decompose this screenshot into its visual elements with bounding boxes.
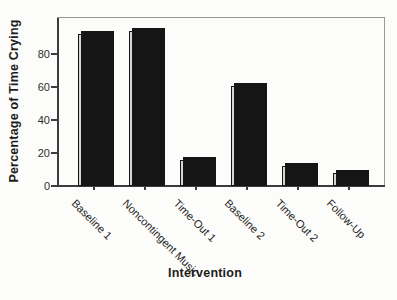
x-tick-label-baseline-2: Baseline 2: [223, 197, 268, 242]
y-tick-label-20: 20: [22, 147, 50, 160]
y-axis-title: Percentage of Time Crying: [7, 19, 21, 182]
bar-time-out-1: [180, 160, 213, 186]
x-axis-title: Intervention: [168, 266, 242, 280]
y-tick-mark-80: [51, 53, 57, 55]
bar-noncontingent-music: [129, 31, 162, 186]
plot-area: 020406080Baseline 1Noncontingent MusicTi…: [57, 17, 385, 187]
y-tick-mark-0: [51, 185, 57, 187]
x-tick-mark-baseline-1: [93, 186, 95, 190]
y-tick-label-0: 0: [22, 180, 50, 193]
bar-chart-figure: Percentage of Time Crying 020406080Basel…: [0, 0, 397, 300]
y-axis-line: [57, 18, 59, 186]
x-tick-label-follow-up: Follow-Up: [325, 197, 368, 240]
y-tick-mark-20: [51, 152, 57, 154]
x-tick-label-time-out-2: Time-Out 2: [274, 197, 321, 244]
x-tick-mark-time-out-1: [195, 186, 197, 190]
x-tick-mark-time-out-2: [297, 186, 299, 190]
x-tick-mark-follow-up: [348, 186, 350, 190]
bar-baseline-1: [78, 34, 111, 186]
x-tick-mark-baseline-2: [246, 186, 248, 190]
y-tick-label-40: 40: [22, 114, 50, 127]
bar-time-out-2: [282, 166, 315, 186]
bar-follow-up: [333, 173, 366, 186]
x-tick-label-baseline-1: Baseline 1: [70, 197, 115, 242]
y-tick-mark-40: [51, 119, 57, 121]
y-tick-mark-60: [51, 86, 57, 88]
y-tick-label-80: 80: [22, 48, 50, 61]
y-tick-label-60: 60: [22, 81, 50, 94]
x-tick-label-time-out-1: Time-Out 1: [172, 197, 219, 244]
x-tick-mark-noncontingent-music: [144, 186, 146, 190]
bar-baseline-2: [231, 86, 264, 186]
